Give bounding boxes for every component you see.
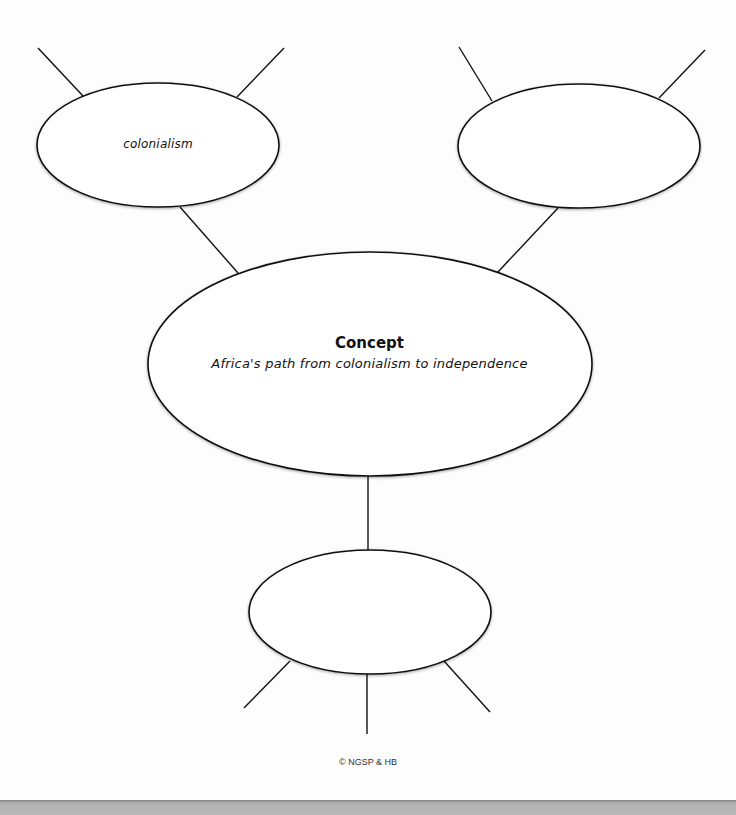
node-bottom[interactable] (249, 550, 491, 674)
concept-web-diagram (0, 0, 736, 815)
copyright-notice: © NGSP & HB (0, 757, 736, 767)
page-bottom-edge (0, 800, 736, 815)
concept-title: Concept (148, 334, 591, 352)
spoke-line-top-left-2 (237, 48, 284, 97)
connector-left-to-center (180, 207, 238, 273)
node-top-right[interactable] (458, 84, 700, 208)
spoke-line-top-right-2 (659, 50, 705, 98)
spoke-line-top-left-1 (38, 48, 83, 96)
spoke-line-top-right-1 (459, 47, 492, 101)
concept-web-canvas: colonialism Concept Africa's path from c… (0, 0, 736, 815)
spoke-line-bottom-3 (444, 661, 490, 712)
node-top-left-label: colonialism (37, 137, 279, 151)
spoke-line-bottom-1 (244, 661, 290, 708)
connector-right-to-center (497, 208, 558, 273)
concept-subtitle: Africa's path from colonialism to indepe… (148, 356, 591, 371)
